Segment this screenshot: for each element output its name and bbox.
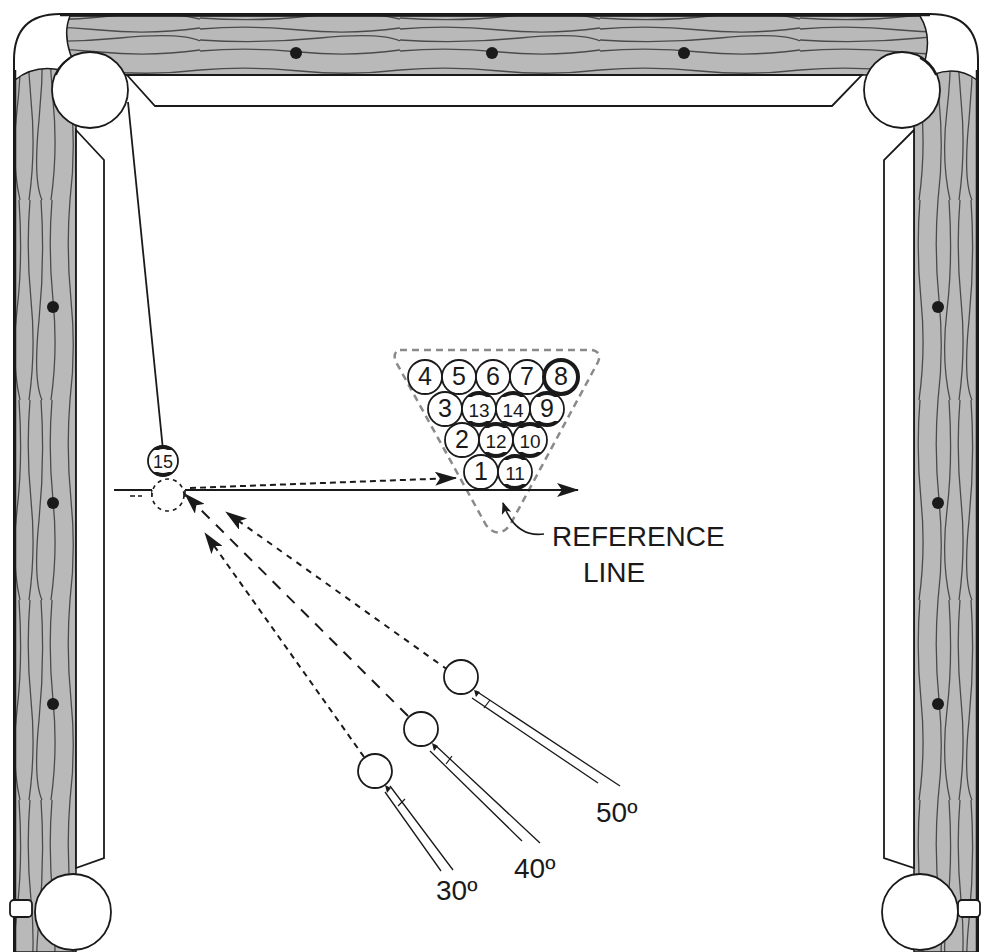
cue-stick: [472, 691, 620, 786]
object-ball-15: 15: [148, 445, 178, 477]
pool-table-diagram: 15 4567831314921210111 50º 40º 30º REFER…: [0, 0, 989, 952]
ball-number: 10: [519, 431, 540, 452]
shot-path-to-rack: [190, 478, 456, 488]
path-30-degree: [205, 533, 364, 757]
ball-9: 9: [530, 392, 564, 426]
diamond-icon: [290, 47, 302, 59]
diamond-icon: [47, 497, 59, 509]
ball-number: 6: [486, 362, 500, 390]
diamond-icon: [678, 47, 690, 59]
ball-number: 13: [468, 400, 489, 421]
diamond-icon: [932, 698, 944, 710]
left-cushion: [76, 130, 104, 868]
cue-ball: [444, 660, 478, 694]
ball-number: 15: [153, 452, 173, 472]
ball-number: 7: [520, 362, 534, 390]
ball-6: 6: [476, 360, 510, 394]
ball-13: 13: [462, 392, 496, 426]
pocket-bottom-right: [882, 874, 958, 950]
ball-number: 5: [452, 362, 466, 390]
ball-11: 11: [498, 455, 532, 489]
right-cushion: [884, 130, 914, 868]
ball-14: 14: [496, 392, 530, 426]
ball-4: 4: [408, 360, 442, 394]
reference-line-label-2: LINE: [583, 557, 645, 588]
label-50-degree: 50º: [596, 797, 637, 828]
cue-stick: [385, 786, 453, 871]
reference-callout-arrow: [503, 503, 544, 534]
ball-number: 9: [540, 394, 554, 422]
ball-5: 5: [442, 360, 476, 394]
diamond-icon: [47, 301, 59, 313]
cue-ball: [358, 754, 392, 788]
ball-number: 4: [418, 362, 432, 390]
cue-40-degree: [404, 712, 540, 843]
diamond-icon: [932, 301, 944, 313]
diamond-icon: [932, 497, 944, 509]
ball-7: 7: [510, 360, 544, 394]
ball-8: 8: [544, 360, 578, 394]
ball-number: 12: [485, 431, 506, 452]
ball-3: 3: [428, 392, 462, 426]
ghost-ball: [152, 479, 184, 511]
path-40-degree: [185, 494, 408, 716]
aim-line-to-pocket: [128, 102, 163, 450]
pocket-bottom-left: [35, 874, 111, 950]
ball-rack: 4567831314921210111: [408, 360, 578, 489]
ball-number: 14: [502, 400, 524, 421]
ball-10: 10: [513, 423, 547, 457]
label-30-degree: 30º: [436, 875, 477, 906]
ball-2: 2: [445, 423, 479, 457]
pocket-liner-right: [958, 900, 980, 917]
ball-number: 8: [554, 362, 568, 390]
ball-number: 1: [474, 457, 488, 485]
top-rail: [60, 15, 930, 75]
ball-12: 12: [479, 423, 513, 457]
cue-50-degree: [444, 660, 620, 786]
diamond-icon: [47, 698, 59, 710]
label-40-degree: 40º: [514, 853, 555, 884]
cue-30-degree: [358, 754, 453, 871]
ball-number: 2: [455, 425, 469, 453]
ball-1: 1: [464, 455, 498, 489]
cue-stick: [430, 745, 540, 843]
diamond-icon: [486, 47, 498, 59]
ball-number: 11: [505, 463, 525, 484]
cue-ball: [404, 712, 438, 746]
right-rail: [914, 70, 977, 952]
reference-line-label: REFERENCE: [552, 521, 725, 552]
left-rail: [15, 69, 76, 952]
top-cushion: [127, 75, 862, 106]
pocket-liner-left: [10, 900, 32, 917]
path-50-degree: [226, 512, 448, 670]
ball-number: 3: [438, 394, 452, 422]
